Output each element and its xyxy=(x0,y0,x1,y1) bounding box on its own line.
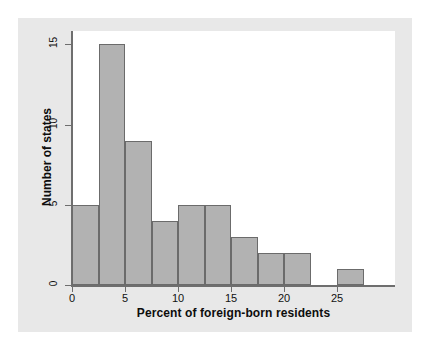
x-axis-tick-label: 10 xyxy=(166,292,190,304)
y-axis-tick xyxy=(65,285,72,286)
histogram-figure: 051015 0510152025 Number of states Perce… xyxy=(0,0,431,349)
histogram-bar xyxy=(284,253,311,285)
x-axis-tick-label: 20 xyxy=(272,292,296,304)
x-axis-title: Percent of foreign-born residents xyxy=(72,306,395,320)
x-axis-line xyxy=(71,285,395,287)
y-axis-tick xyxy=(65,44,72,45)
histogram-bar xyxy=(205,205,232,285)
x-axis-tick-label: 0 xyxy=(60,292,84,304)
histogram-bar xyxy=(125,141,152,285)
histogram-bar xyxy=(178,205,205,285)
histogram-bar xyxy=(231,237,258,285)
histogram-bar xyxy=(152,221,179,285)
x-axis-tick-label: 5 xyxy=(113,292,137,304)
histogram-bar xyxy=(72,205,99,285)
y-axis-tick-label: 0 xyxy=(48,275,59,293)
y-axis-tick xyxy=(65,205,72,206)
y-axis-tick xyxy=(65,125,72,126)
y-axis-tick-label: 15 xyxy=(48,34,59,52)
histogram-bar xyxy=(337,269,364,285)
histogram-bar xyxy=(99,44,126,285)
y-axis-title: Number of states xyxy=(40,77,54,237)
x-axis-tick-label: 25 xyxy=(325,292,349,304)
histogram-bar xyxy=(258,253,285,285)
x-axis-tick-label: 15 xyxy=(219,292,243,304)
